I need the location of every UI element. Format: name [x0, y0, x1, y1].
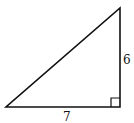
right-angle-marker — [111, 98, 120, 107]
triangle-diagram: 6 7 — [0, 0, 134, 123]
vertical-leg-label: 6 — [123, 53, 131, 67]
horizontal-leg-label: 7 — [63, 110, 71, 123]
right-triangle — [6, 8, 120, 107]
